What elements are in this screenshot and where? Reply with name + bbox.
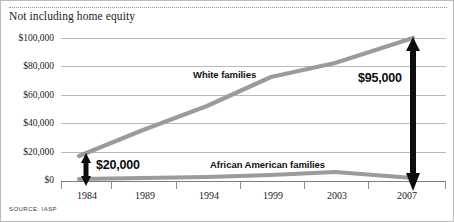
y-axis-label-100000: $100,000 [18,33,54,43]
x-axis-tick-2 [176,182,177,189]
y-axis-label-60000: $60,000 [23,90,54,100]
gridline-40000 [61,123,446,124]
gridline-20000 [61,152,446,153]
x-axis-label-1994: 1994 [199,190,219,201]
annotation-20000: $20,000 [96,158,140,172]
x-axis-tick-1 [111,182,112,189]
chart-note: Not including home equity [9,10,135,22]
x-axis-tick-6 [445,182,446,189]
x-axis-tick-4 [304,182,305,189]
y-axis-label-80000: $80,000 [23,61,54,71]
x-axis-label-1999: 1999 [263,190,283,201]
gridline-60000 [61,95,446,96]
series-label-african-american-families: African American families [210,159,325,170]
x-axis-tick-5 [368,182,369,189]
y-axis-label-40000: $40,000 [23,118,54,128]
y-axis-label-20000: $20,000 [23,147,54,157]
gridline-100000 [61,38,446,39]
x-axis-label-2003: 2003 [327,190,347,201]
x-axis-label-1984: 1984 [77,190,97,201]
y-axis-label-0: $0 [45,175,55,185]
series-label-white-families: White families [193,69,256,80]
annotation-95000: $95,000 [358,71,402,85]
top-dotted-divider [9,7,447,9]
x-axis-label-2007: 2007 [397,190,417,201]
x-axis-line [61,181,446,182]
x-axis-label-1989: 1989 [135,190,155,201]
chart-container: Not including home equity $100,000 $80,0… [0,0,454,222]
source-caption: SOURCE: IASP [9,206,57,212]
gridline-80000 [61,66,446,67]
x-axis-tick-3 [240,182,241,189]
x-axis-tick-0 [61,182,62,189]
